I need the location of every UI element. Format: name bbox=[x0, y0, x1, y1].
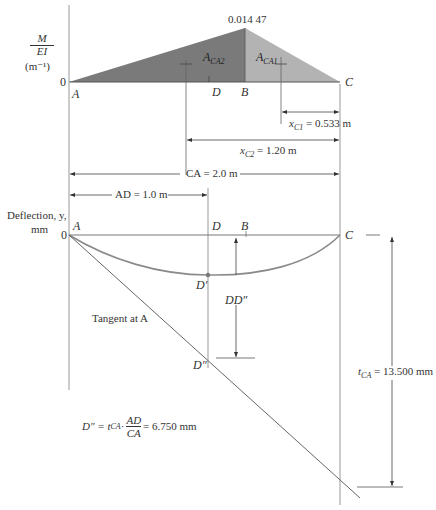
tangent-label: Tangent at A bbox=[92, 313, 148, 324]
label-d-top: D bbox=[212, 86, 221, 98]
deflection-axis-unit: mm bbox=[31, 224, 48, 235]
formula-lhs: D″ = t bbox=[82, 421, 111, 432]
label-c-top: C bbox=[345, 76, 353, 88]
mei-label-ei: EI bbox=[30, 46, 54, 58]
deflection-origin: 0 bbox=[61, 229, 67, 241]
area-aca1-label: ACA1 bbox=[256, 51, 278, 66]
area-aca2-label: ACA2 bbox=[203, 51, 225, 66]
deflection-curve bbox=[69, 235, 340, 275]
xc1-dimension: xC1 = 0.533 m bbox=[289, 118, 351, 132]
tca-dimension: tCA = 13.500 mm bbox=[358, 366, 433, 380]
mei-unit: (m⁻¹) bbox=[25, 61, 50, 72]
peak-value: 0.014 47 bbox=[228, 14, 267, 25]
label-c-bottom: C bbox=[345, 229, 353, 241]
mei-axis-label: M EI bbox=[30, 33, 54, 57]
formula-rhs: = 6.750 mm bbox=[143, 421, 197, 432]
label-b-bottom: B bbox=[241, 220, 248, 232]
label-d-prime: D′ bbox=[196, 279, 207, 291]
dd-dimension-label: DD″ bbox=[225, 294, 247, 306]
formula-fraction: AD CA bbox=[126, 414, 141, 439]
deflection-axis-label: Deflection, y, bbox=[7, 210, 66, 221]
label-a-top: A bbox=[72, 88, 79, 100]
ad-dimension: AD = 1.0 m bbox=[115, 189, 168, 200]
xc2-dimension: xC2 = 1.20 m bbox=[240, 145, 297, 159]
formula: D″ = tCA · AD CA = 6.750 mm bbox=[82, 414, 197, 439]
label-d-double-prime: D″ bbox=[193, 359, 207, 371]
point-d-prime bbox=[206, 273, 210, 277]
mei-origin: 0 bbox=[60, 76, 66, 88]
ca-dimension: CA = 2.0 m bbox=[186, 168, 237, 179]
formula-tca-sub: CA bbox=[111, 423, 121, 431]
label-d-bottom: D bbox=[212, 220, 221, 232]
mei-label-m: M bbox=[30, 33, 54, 46]
label-a-bottom: A bbox=[73, 220, 80, 232]
formula-dot: · bbox=[121, 421, 125, 432]
label-b-top: B bbox=[241, 86, 248, 98]
